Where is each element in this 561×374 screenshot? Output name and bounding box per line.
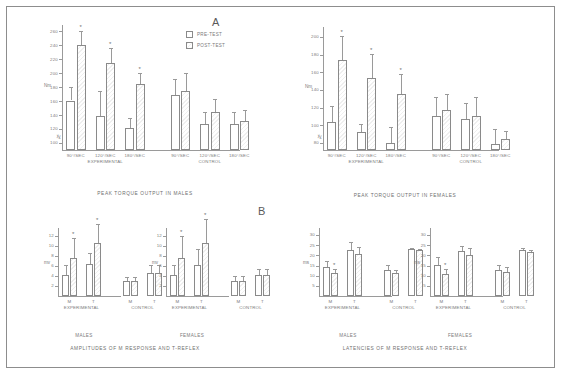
y-axis-tick-label: 5	[301, 283, 315, 288]
y-axis-tick-label: 12	[148, 233, 162, 238]
bar-pre-test	[461, 119, 470, 150]
bar-post-test	[527, 252, 534, 296]
caption-peak-torque-females: PEAK TORQUE OUTPUT IN FEMALES	[320, 193, 490, 198]
x-axis-category-label: 180°/SEC	[382, 153, 410, 158]
y-axis-tick-label: 160	[44, 99, 58, 104]
bar-pre-test	[62, 275, 69, 296]
y-axis-tick	[59, 45, 62, 46]
y-axis-tick	[316, 266, 319, 267]
bar-post-test	[181, 91, 190, 150]
significance-marker: *	[72, 231, 74, 237]
error-bar-cap	[64, 265, 68, 266]
error-bar	[90, 253, 91, 265]
bar-pre-test	[386, 143, 395, 150]
y-axis-tick	[427, 255, 430, 256]
error-bar	[495, 129, 496, 144]
y-axis-tick-label: 2	[40, 283, 54, 288]
error-bar	[391, 127, 392, 143]
chart-peak-torque-females: 80100120140160180200≠Nm*90°/SEC*120°/SEC…	[303, 20, 503, 170]
y-axis-tick	[55, 286, 58, 287]
error-bar	[466, 103, 467, 119]
bar-post-test	[202, 243, 209, 296]
error-bar	[361, 124, 362, 133]
y-axis-tick-label: 120	[305, 105, 319, 110]
x-axis	[430, 296, 503, 297]
caption-amplitudes: AMPLITUDES OF M RESPONSE AND T-REFLEX	[50, 346, 220, 351]
error-bar-cap	[359, 124, 363, 125]
y-axis-tick-label: 80	[305, 140, 319, 145]
y-axis-tick-label: 220	[44, 57, 58, 62]
error-bar-cap	[69, 87, 73, 88]
error-bar-cap	[88, 253, 92, 254]
x-axis-category-label: T	[452, 299, 480, 304]
y-axis-tick-label: 240	[44, 43, 58, 48]
y-axis-tick	[163, 236, 166, 237]
error-bar-cap	[233, 276, 237, 277]
y-axis-tick-label: 30	[412, 232, 426, 237]
error-bar-cap	[125, 277, 129, 278]
error-bar-cap	[357, 247, 361, 248]
bar-pre-test	[458, 251, 465, 296]
error-bar	[71, 87, 72, 100]
bar-post-test	[106, 63, 115, 150]
error-bar-cap	[265, 269, 269, 270]
x-axis-category-label: T	[341, 299, 369, 304]
x-axis-category-label: 180°/SEC	[225, 153, 253, 158]
y-axis-tick	[427, 245, 430, 246]
y-axis-tick	[320, 108, 323, 109]
error-bar-cap	[497, 265, 501, 266]
y-axis-unit-label: mv	[152, 260, 158, 265]
bar-pre-test	[171, 95, 180, 150]
x-axis-category-label: T	[513, 299, 541, 304]
y-axis-tick	[316, 235, 319, 236]
x-axis-category-label: 120°/SEC	[91, 153, 119, 158]
x-axis-category-label: 120°/SEC	[352, 153, 380, 158]
y-axis-tick-label: 140	[44, 113, 58, 118]
chart-latencies-females: 51015202530ms*MTMTEXPERIMENTALCONTROL	[414, 222, 506, 314]
error-bar-cap	[436, 257, 440, 258]
x-axis-category-label: 90°/SEC	[62, 153, 90, 158]
x-axis-group-label: EXPERIMENTAL	[424, 305, 484, 310]
error-bar	[174, 265, 175, 275]
y-axis	[166, 228, 167, 296]
error-bar-cap	[340, 36, 344, 37]
y-axis-tick-label: 10	[40, 243, 54, 248]
error-bar-cap	[243, 110, 247, 111]
y-axis-tick-label: 20	[412, 253, 426, 258]
bar-pre-test	[255, 275, 262, 296]
x-axis	[323, 150, 499, 151]
error-bar-cap	[504, 131, 508, 132]
error-bar	[140, 73, 141, 84]
error-bar-cap	[474, 97, 478, 98]
bar-post-test	[331, 273, 338, 296]
bar-pre-test	[194, 265, 201, 297]
error-bar-cap	[79, 31, 83, 32]
error-bar-cap	[213, 99, 217, 100]
bar-post-test	[338, 60, 347, 150]
error-bar	[342, 36, 343, 60]
error-bar	[476, 97, 477, 116]
error-bar	[130, 118, 131, 128]
error-bar-cap	[529, 250, 533, 251]
y-axis-tick	[59, 31, 62, 32]
y-axis-tick	[59, 73, 62, 74]
y-axis	[430, 228, 431, 296]
y-axis-tick-label: 20	[301, 253, 315, 258]
y-axis-tick-label: 30	[301, 232, 315, 237]
error-bar	[100, 91, 101, 115]
significance-marker: *	[204, 212, 206, 218]
bar-post-test	[131, 281, 138, 296]
y-axis-tick-label: 100	[44, 140, 58, 145]
significance-marker: *	[399, 67, 401, 73]
x-axis	[319, 296, 392, 297]
subcaption-latencies-females: FEMALES	[412, 333, 508, 338]
bar-post-test	[442, 274, 449, 296]
caption-latencies: LATENCIES OF M RESPONSE AND T-REFLEX	[320, 346, 490, 351]
significance-marker: *	[370, 47, 372, 53]
error-bar	[198, 249, 199, 265]
error-bar-cap	[203, 112, 207, 113]
y-axis-tick	[163, 266, 166, 267]
y-axis-tick	[59, 143, 62, 144]
significance-marker: *	[180, 229, 182, 235]
y-axis-tick-label: 180	[305, 52, 319, 57]
